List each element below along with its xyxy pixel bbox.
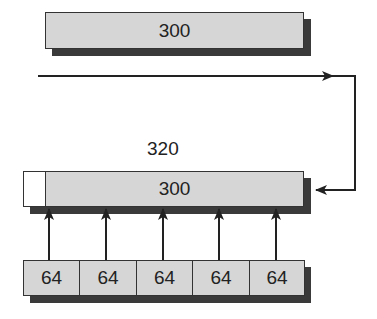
up-arrows-icon: [49, 209, 276, 260]
arrows-layer: [0, 0, 377, 319]
loop-arrow-icon: [38, 76, 355, 190]
